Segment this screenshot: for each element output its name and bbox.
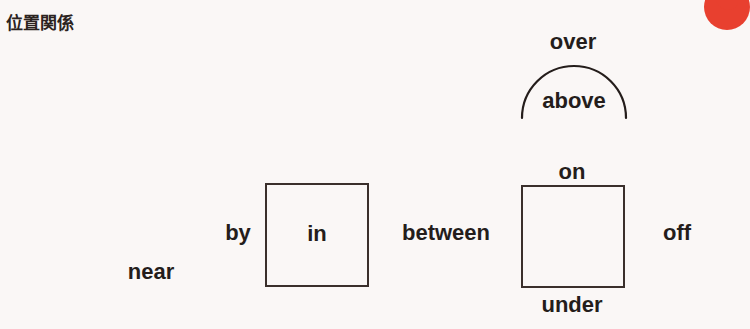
label-over: over xyxy=(550,31,596,53)
label-under: under xyxy=(541,294,602,316)
label-by: by xyxy=(225,222,251,244)
label-off: off xyxy=(663,222,691,244)
label-on: on xyxy=(559,161,586,183)
right-box xyxy=(521,185,625,288)
label-above: above xyxy=(542,90,606,112)
label-between: between xyxy=(402,222,490,244)
page-title: 位置関係 xyxy=(6,9,74,34)
label-near: near xyxy=(128,261,174,283)
label-in: in xyxy=(307,223,327,245)
